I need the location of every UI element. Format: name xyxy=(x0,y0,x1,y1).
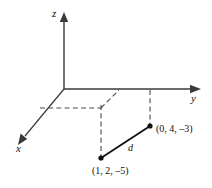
distance-segment-label: d xyxy=(128,143,133,153)
z-axis xyxy=(60,12,68,89)
y-axis xyxy=(64,85,201,94)
distance-segment xyxy=(101,126,150,158)
x-axis xyxy=(18,89,64,145)
lower-point-marker xyxy=(98,155,103,160)
lower-point-label: (1, 2, –5) xyxy=(92,166,129,176)
x-axis-label: x xyxy=(16,143,21,154)
diagram-canvas xyxy=(0,0,212,188)
y-axis-label: y xyxy=(191,93,196,104)
coordinate-diagram: z y x d (0, 4, –3) (1, 2, –5) xyxy=(0,0,212,188)
upper-point-marker xyxy=(147,123,152,128)
z-axis-label: z xyxy=(52,8,56,19)
upper-point-label: (0, 4, –3) xyxy=(156,124,193,134)
dashed-diagonal-origin xyxy=(101,90,119,108)
